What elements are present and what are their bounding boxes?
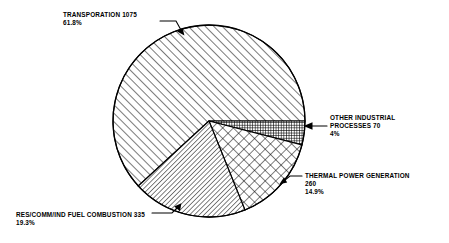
leader-other-industrial xyxy=(304,122,328,130)
slice-label-other-industrial-percent: 4% xyxy=(330,130,395,138)
slice-label-res-comm-ind: RES/COMM/IND FUEL COMBUSTION 335 19.3% xyxy=(16,211,145,227)
slice-label-other-industrial: OTHER INDUSTRIAL PROCESSES 70 4% xyxy=(330,114,395,139)
slice-label-res-comm-ind-name: RES/COMM/IND FUEL COMBUSTION 335 xyxy=(16,211,145,219)
slice-label-other-industrial-name-line2: PROCESSES 70 xyxy=(330,122,395,130)
slice-label-res-comm-ind-percent: 19.3% xyxy=(16,219,145,227)
pie-chart-figure: TRANSPORATION 1075 61.8% OTHER INDUSTRIA… xyxy=(0,0,449,243)
slice-label-transportation-name: TRANSPORATION 1075 xyxy=(63,11,137,19)
slice-label-thermal-power-name: THERMAL POWER GENERATION xyxy=(305,172,410,180)
slice-label-thermal-power: THERMAL POWER GENERATION 260 14.9% xyxy=(305,172,410,197)
slice-label-other-industrial-name-line1: OTHER INDUSTRIAL xyxy=(330,114,395,122)
slice-label-thermal-power-percent: 14.9% xyxy=(305,188,410,196)
slice-label-thermal-power-value: 260 xyxy=(305,180,410,188)
slice-label-transportation-percent: 61.8% xyxy=(63,19,137,27)
slice-label-transportation: TRANSPORATION 1075 61.8% xyxy=(63,11,137,27)
